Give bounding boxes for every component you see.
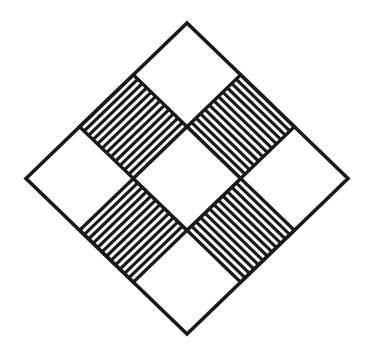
basketweave-diamond-svg [0, 0, 379, 358]
figure-canvas [0, 0, 379, 358]
